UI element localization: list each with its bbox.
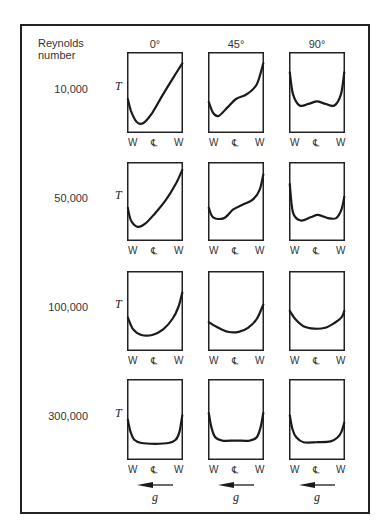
right-wall-label: W (174, 355, 183, 366)
centerline-label: ℄ (232, 355, 238, 366)
right-wall-label: W (336, 355, 345, 366)
temperature-axis-label: T (115, 297, 122, 312)
row-header: Reynolds number (38, 37, 84, 61)
plot-box (128, 163, 183, 241)
temperature-curve (209, 175, 263, 219)
temperature-profile-plot (289, 379, 345, 460)
centerline-label: ℄ (313, 464, 319, 475)
right-wall-label: W (336, 464, 345, 475)
gravity-label: g (152, 490, 158, 505)
reynolds-number-label: 10,000 (28, 83, 88, 95)
right-wall-label: W (255, 464, 264, 475)
centerline-label: ℄ (313, 245, 319, 256)
plot-box (209, 272, 264, 351)
plot-box (209, 380, 264, 460)
row-header-line-1: Reynolds (38, 37, 84, 49)
left-wall-label: W (290, 137, 299, 148)
centerline-label: ℄ (232, 464, 238, 475)
temperature-curve (128, 170, 183, 227)
gravity-arrow-icon (218, 481, 254, 489)
reynolds-number-label: 300,000 (28, 410, 88, 422)
gravity-label: g (314, 490, 320, 505)
left-wall-label: W (290, 245, 299, 256)
temperature-axis-label: T (115, 79, 122, 94)
gravity-label: g (233, 490, 239, 505)
centerline-label: ℄ (232, 245, 238, 256)
temperature-profile-plot (289, 162, 345, 241)
plot-box (128, 380, 183, 460)
temperature-profile-plot (208, 162, 264, 241)
right-wall-label: W (336, 137, 345, 148)
gravity-arrow-icon (299, 481, 335, 489)
temperature-curve (290, 72, 345, 106)
temperature-curve (209, 413, 263, 441)
temperature-curve (290, 311, 345, 329)
temperature-profile-plot (127, 271, 183, 351)
row-header-line-2: number (38, 49, 84, 61)
right-wall-label: W (255, 355, 264, 366)
temperature-curve (128, 63, 183, 124)
gravity-arrow-icon (137, 481, 173, 489)
left-wall-label: W (290, 355, 299, 366)
temperature-profile-plot (127, 52, 183, 133)
right-wall-label: W (174, 464, 183, 475)
reynolds-number-label: 50,000 (28, 192, 88, 204)
right-wall-label: W (336, 245, 345, 256)
plot-box (290, 380, 345, 460)
right-wall-label: W (255, 245, 264, 256)
plot-box (209, 53, 264, 133)
plot-box (290, 272, 345, 351)
left-wall-label: W (128, 464, 137, 475)
column-header-45: 45° (208, 38, 264, 50)
temperature-profile-plot (127, 379, 183, 460)
right-wall-label: W (255, 137, 264, 148)
centerline-label: ℄ (313, 355, 319, 366)
left-wall-label: W (209, 137, 218, 148)
centerline-label: ℄ (151, 137, 157, 148)
left-wall-label: W (209, 355, 218, 366)
temperature-profile-plot (289, 271, 345, 351)
plot-box (290, 163, 345, 241)
temperature-profile-plot (289, 52, 345, 133)
column-header-90: 90° (289, 38, 345, 50)
temperature-curve (290, 184, 345, 221)
centerline-label: ℄ (151, 355, 157, 366)
left-wall-label: W (128, 355, 137, 366)
centerline-label: ℄ (232, 137, 238, 148)
temperature-axis-label: T (115, 406, 122, 421)
temperature-profile-plot (208, 379, 264, 460)
left-wall-label: W (290, 464, 299, 475)
left-wall-label: W (209, 245, 218, 256)
temperature-curve (290, 415, 345, 442)
temperature-curve (128, 415, 183, 443)
temperature-profile-plot (127, 162, 183, 241)
left-wall-label: W (128, 245, 137, 256)
reynolds-number-label: 100,000 (28, 301, 88, 313)
temperature-curve (209, 63, 263, 116)
plot-box (128, 272, 183, 351)
temperature-profile-plot (208, 52, 264, 133)
temperature-profile-plot (208, 271, 264, 351)
centerline-label: ℄ (151, 464, 157, 475)
left-wall-label: W (209, 464, 218, 475)
temperature-curve (128, 293, 183, 336)
centerline-label: ℄ (313, 137, 319, 148)
plot-box (290, 53, 345, 133)
right-wall-label: W (174, 245, 183, 256)
centerline-label: ℄ (151, 245, 157, 256)
temperature-axis-label: T (115, 188, 122, 203)
column-header-0: 0° (127, 38, 183, 50)
temperature-curve (209, 305, 263, 333)
left-wall-label: W (128, 137, 137, 148)
right-wall-label: W (174, 137, 183, 148)
plot-box (209, 163, 264, 241)
